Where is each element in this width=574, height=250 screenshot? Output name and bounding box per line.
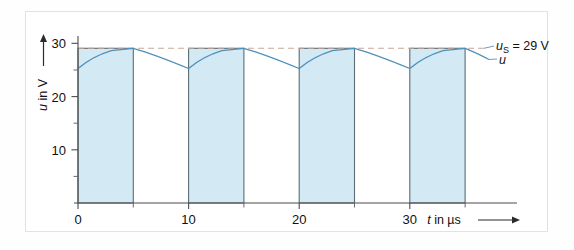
y-axis-label: u in V (36, 78, 50, 111)
x-tick-label-10: 10 (181, 212, 195, 227)
supply-label-leader (484, 46, 494, 48)
x-tick-label-0: 0 (74, 212, 81, 227)
pulse-rect (78, 48, 133, 203)
x-axis-arrow-head (512, 217, 520, 224)
y-axis-label-units: in V (36, 78, 50, 104)
x-tick-label-20: 20 (292, 212, 306, 227)
y-axis-ticks (72, 43, 79, 176)
pulse-rect (299, 48, 354, 203)
y-tick-label-20: 20 (52, 90, 66, 105)
chart-svg: 30 20 10 0 10 20 30 t in µs u in V uS = … (0, 0, 574, 250)
figure-container: 30 20 10 0 10 20 30 t in µs u in V uS = … (0, 0, 574, 250)
supply-label-value: = 29 V (509, 39, 550, 53)
x-tick-label-30: 30 (403, 212, 417, 227)
ripple-curve-label: u (499, 53, 506, 67)
y-axis-label-variable: u (36, 104, 50, 111)
pulse-rect (410, 48, 465, 203)
x-axis-ticks (78, 203, 465, 209)
y-axis-arrow-head (40, 34, 47, 42)
x-axis-label-units: in µs (431, 213, 461, 227)
pulse-areas (78, 48, 465, 203)
curve-label-leader (489, 59, 497, 60)
pulse-rect (189, 48, 244, 203)
x-axis-label: t in µs (427, 213, 461, 227)
y-tick-label-10: 10 (52, 143, 66, 158)
y-tick-label-30: 30 (52, 36, 66, 51)
supply-label-symbol: u (496, 39, 503, 53)
